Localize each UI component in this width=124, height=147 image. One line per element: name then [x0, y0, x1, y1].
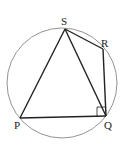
segment-SR [65, 29, 103, 49]
segment-SQ [65, 29, 106, 116]
segment-RQ [103, 49, 106, 116]
geometry-diagram: S R Q P [0, 0, 124, 147]
segment-PS [20, 29, 65, 118]
label-P: P [14, 119, 20, 131]
segment-QP [20, 116, 106, 118]
label-Q: Q [104, 119, 112, 131]
label-S: S [61, 15, 67, 27]
label-R: R [101, 37, 109, 49]
